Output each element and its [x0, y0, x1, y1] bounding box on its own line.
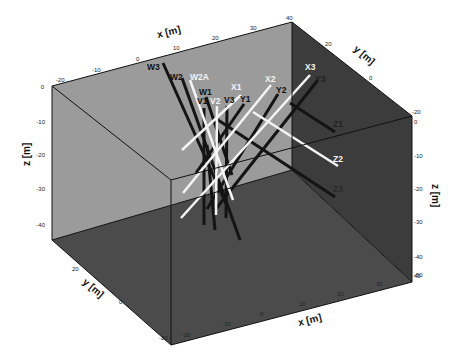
- svg-text:40: 40: [286, 15, 293, 21]
- svg-text:0: 0: [369, 75, 373, 81]
- borehole-3d-figure: -20 -10 0 10 20 30 40 x [m] 20 0 -20 y […: [0, 0, 462, 358]
- svg-text:V2: V2: [210, 96, 221, 106]
- svg-text:X2: X2: [265, 74, 276, 84]
- svg-text:Y3: Y3: [315, 74, 326, 84]
- x-bottom-axis-label: x [m]: [297, 311, 323, 327]
- svg-text:0: 0: [136, 56, 140, 62]
- z-left-ticks: 0 -10 -20 -30 -40: [36, 84, 45, 228]
- svg-text:-30: -30: [36, 186, 45, 192]
- svg-text:30: 30: [376, 281, 383, 287]
- svg-text:V3: V3: [224, 95, 235, 105]
- svg-text:W2: W2: [170, 72, 183, 82]
- z-left-axis-label: z [m]: [21, 143, 32, 166]
- svg-text:-20: -20: [414, 186, 423, 192]
- svg-text:W2A: W2A: [190, 72, 209, 82]
- svg-text:10: 10: [299, 301, 306, 307]
- svg-text:Y1: Y1: [240, 94, 251, 104]
- y-top-axis-label: y [m]: [352, 43, 377, 67]
- svg-text:-10: -10: [414, 153, 423, 159]
- svg-text:-20: -20: [56, 77, 65, 83]
- svg-text:Y2: Y2: [276, 85, 287, 95]
- svg-text:20: 20: [72, 266, 79, 272]
- z-right-ticks: 0 -10 -20 -30 -40 -50: [414, 119, 423, 278]
- svg-text:0: 0: [41, 84, 45, 90]
- svg-text:-40: -40: [414, 254, 423, 260]
- borehole-v3: [226, 106, 227, 218]
- svg-text:X1: X1: [231, 82, 242, 92]
- svg-text:V1: V1: [197, 96, 208, 106]
- svg-text:20: 20: [325, 41, 332, 47]
- x-top-axis-label: x [m]: [156, 23, 182, 39]
- svg-text:-20: -20: [412, 109, 421, 115]
- svg-text:40: 40: [414, 273, 421, 279]
- svg-text:-20: -20: [182, 332, 191, 338]
- svg-text:-10: -10: [36, 119, 45, 125]
- svg-text:Z1: Z1: [333, 119, 343, 129]
- svg-text:-20: -20: [159, 335, 168, 341]
- svg-text:X3: X3: [305, 62, 316, 72]
- svg-text:-30: -30: [414, 219, 423, 225]
- svg-text:Z3: Z3: [333, 184, 343, 194]
- svg-text:Z2: Z2: [333, 154, 343, 164]
- z-right-axis-label: z [m]: [430, 184, 441, 207]
- svg-text:W3: W3: [147, 62, 160, 72]
- svg-text:20: 20: [337, 291, 344, 297]
- svg-text:20: 20: [212, 35, 219, 41]
- svg-text:-10: -10: [222, 321, 231, 327]
- borehole-v2: [216, 106, 217, 215]
- svg-text:-10: -10: [92, 67, 101, 73]
- svg-text:10: 10: [173, 45, 180, 51]
- svg-text:30: 30: [250, 25, 257, 31]
- svg-text:0: 0: [414, 119, 418, 125]
- svg-text:-40: -40: [36, 222, 45, 228]
- svg-text:-20: -20: [36, 152, 45, 158]
